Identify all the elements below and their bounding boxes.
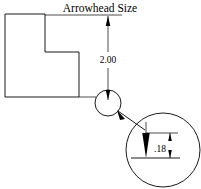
drawing-canvas: Arrowhead Size 2.00 .18 [0, 0, 201, 189]
arrowhead-down-icon [106, 90, 111, 100]
engineering-drawing: Arrowhead Size 2.00 .18 [0, 0, 201, 189]
drawing-title: Arrowhead Size [63, 2, 137, 14]
arrowhead-up-icon [106, 16, 111, 26]
detail-arrowhead-up-icon [168, 133, 172, 141]
section-outline [5, 14, 79, 97]
detail-dimension-label: .18 [154, 144, 166, 154]
vertical-dimension-label: 2.00 [100, 55, 117, 65]
magnified-arrowhead-icon [142, 133, 149, 158]
detail-arrowhead-down-icon [168, 150, 172, 158]
hatched-section [5, 14, 79, 97]
